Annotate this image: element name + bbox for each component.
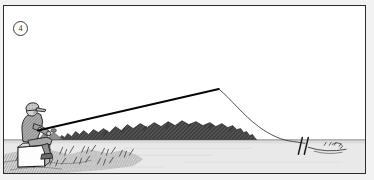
illustration-panel: An angler seated on a white tackle box o… xyxy=(0,0,374,180)
panel-number-label: 4 xyxy=(19,25,23,33)
figure-frame: An angler seated on a white tackle box o… xyxy=(3,5,366,174)
scene-illustration xyxy=(4,6,365,173)
panel-number-badge: 4 xyxy=(13,21,28,36)
sky-region xyxy=(4,6,365,139)
